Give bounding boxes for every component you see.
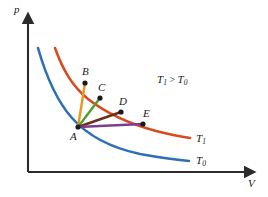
point-marker-C bbox=[97, 95, 102, 100]
pv-diagram-figure: p V A B C D E T1 T0 T1 > T0 bbox=[0, 0, 268, 197]
isotherm-curves-group bbox=[38, 48, 190, 161]
curve-label-T1-subscript: 1 bbox=[202, 137, 206, 146]
curve-label-T0: T0 bbox=[196, 155, 206, 166]
relation-left-subscript: 1 bbox=[163, 78, 167, 87]
point-marker-D bbox=[118, 109, 123, 114]
process-segments-group bbox=[78, 83, 143, 127]
point-label-D: D bbox=[119, 96, 127, 107]
point-label-E: E bbox=[143, 108, 150, 119]
curve-label-T1: T1 bbox=[196, 133, 206, 144]
point-markers-group bbox=[75, 80, 145, 129]
temperature-relation-annotation: T1 > T0 bbox=[157, 74, 187, 85]
relation-operator: > bbox=[167, 74, 178, 85]
point-label-A: A bbox=[70, 131, 77, 142]
point-label-C: C bbox=[98, 82, 105, 93]
point-label-B: B bbox=[82, 66, 89, 77]
pv-diagram-canvas bbox=[0, 0, 268, 197]
axes-group bbox=[28, 22, 246, 172]
point-marker-A bbox=[75, 124, 80, 129]
curve-label-T0-subscript: 0 bbox=[202, 159, 206, 168]
y-axis-label: p bbox=[14, 4, 20, 15]
relation-right-base: T bbox=[178, 73, 184, 85]
relation-right-subscript: 0 bbox=[184, 78, 188, 87]
point-marker-B bbox=[82, 80, 87, 85]
point-marker-E bbox=[140, 121, 145, 126]
x-axis-label: V bbox=[248, 178, 255, 189]
